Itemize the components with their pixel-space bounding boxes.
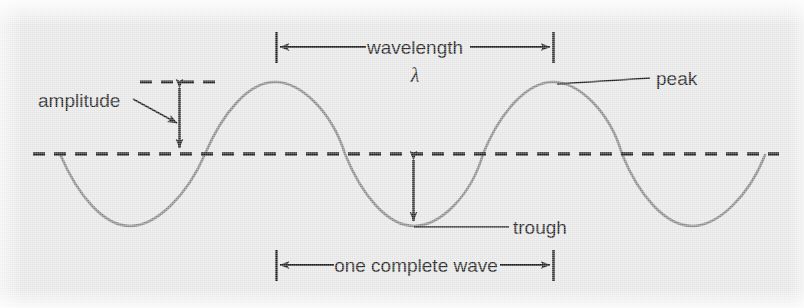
trough-dimension: trough [414, 160, 567, 238]
wavelength-label: wavelength [366, 37, 463, 58]
peak-callout: peak [557, 68, 698, 89]
one-complete-wave-dimension: one complete wave [277, 250, 554, 281]
wave-diagram-figure: wavelength λ amplitude peak trough one c… [0, 0, 804, 308]
amplitude-label: amplitude [38, 90, 120, 111]
amplitude-leader-line [133, 99, 177, 123]
lambda-symbol-label: λ [410, 64, 420, 86]
wave-diagram-canvas: wavelength λ amplitude peak trough one c… [0, 0, 804, 308]
peak-label: peak [656, 68, 698, 89]
wavelength-dimension: wavelength λ [277, 32, 554, 86]
peak-leader-line [557, 78, 650, 84]
amplitude-dimension: amplitude [38, 88, 180, 148]
trough-label: trough [513, 217, 567, 238]
one-complete-wave-label: one complete wave [334, 255, 498, 276]
